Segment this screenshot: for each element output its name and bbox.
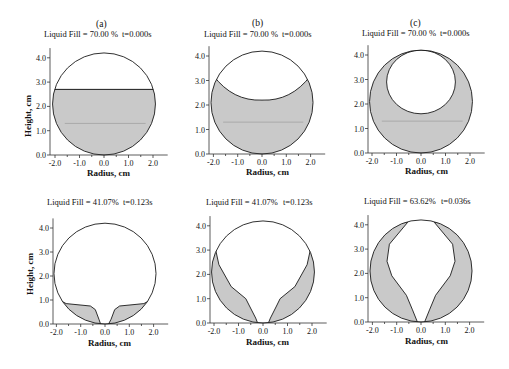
y-tick-label: 2.0 [196, 270, 206, 279]
y-tick-label: 3.0 [354, 245, 364, 254]
axes [50, 218, 168, 327]
x-tick-label: -2.0 [366, 326, 379, 335]
y-tick-label: 2.0 [354, 269, 364, 278]
y-tick-label: 1.0 [354, 294, 364, 303]
liquid-region [48, 89, 161, 157]
x-axis-title: Radius, cm [246, 167, 290, 177]
panel-title: Liquid Fill = 70.00 % [204, 29, 278, 39]
x-tick-label: 1.0 [124, 159, 134, 168]
x-tick-label: 1.0 [440, 326, 450, 335]
panel-title: Liquid Fill = 63.62% [364, 196, 436, 206]
y-tick-label: 4.0 [354, 51, 364, 60]
y-tick-label: 1.0 [196, 295, 206, 304]
plot-area: 0.01.02.03.04.0-2.0-1.00.01.02.0 [195, 44, 325, 167]
panel-top-c: (c) Liquid Fill = 70.00 % t=0.000s 0.01.… [354, 18, 485, 176]
y-tick-label: 0.0 [354, 149, 364, 158]
x-tick-label: -2.0 [207, 158, 220, 167]
plot-area: 0.01.02.03.04.0-2.0-1.00.01.02.0 [196, 216, 327, 336]
panel-title: Liquid Fill = 41.07% [206, 197, 278, 207]
y-axis-title: Height, cm [25, 253, 35, 295]
liquid-region [52, 295, 159, 324]
panel-time: t=0.123s [123, 197, 153, 207]
panel-top-b: (b) Liquid Fill = 70.00 % t=0.000s 0.01.… [195, 18, 325, 177]
y-tick-label: 4.0 [195, 52, 205, 61]
panel-title: Liquid Fill = 41.07% [47, 197, 119, 207]
x-tick-label: 1.0 [283, 327, 293, 336]
liquid-region [207, 248, 320, 323]
y-tick-label: 2.0 [36, 102, 46, 111]
panel-time: t=0.000s [122, 29, 152, 39]
y-tick-label: 4.0 [39, 224, 49, 233]
panel-time: t=0.036s [441, 196, 471, 206]
plot-area: 0.01.02.03.04.0-2.0-1.00.01.02.0 [354, 45, 485, 166]
panel-bottom-b: Liquid Fill = 41.07% t=0.123s 0.01.02.03… [196, 197, 327, 347]
x-axis-title: Radius, cm [87, 168, 131, 178]
y-tick-label: 0.0 [195, 150, 205, 159]
y-tick-label: 0.0 [39, 320, 49, 329]
x-tick-label: 1.0 [281, 158, 291, 167]
x-tick-label: -1.0 [390, 157, 403, 166]
y-tick-label: 1.0 [39, 296, 49, 305]
y-tick-label: 2.0 [195, 101, 205, 110]
liquid-region [206, 44, 318, 157]
x-tick-label: -2.0 [50, 328, 63, 337]
x-tick-label: -1.0 [74, 328, 87, 337]
panel-bottom-c: Liquid Fill = 63.62% t=0.036s 0.01.02.03… [354, 196, 484, 346]
x-tick-label: 2.0 [307, 327, 317, 336]
panel-time: t=0.000s [440, 28, 470, 38]
y-tick-label: 4.0 [354, 221, 364, 230]
panel-letter: (b) [252, 18, 263, 29]
x-tick-label: 1.0 [124, 328, 134, 337]
x-tick-label: 2.0 [465, 157, 475, 166]
y-tick-label: 1.0 [195, 126, 205, 135]
y-tick-label: 3.0 [36, 78, 46, 87]
x-tick-label: 2.0 [149, 328, 159, 337]
liquid-region [365, 48, 478, 156]
y-tick-label: 0.0 [196, 319, 206, 328]
y-tick-label: 1.0 [354, 125, 364, 134]
x-tick-label: -2.0 [49, 159, 62, 168]
x-axis-title: Radius, cm [405, 166, 449, 176]
x-tick-label: 0.0 [416, 326, 426, 335]
plot-area: 0.01.02.03.04.0-2.0-1.00.01.02.0 [39, 218, 168, 337]
liquid-fill-figure: (a) Liquid Fill = 70.00 % t=0.000s 0.01.… [0, 0, 509, 369]
y-tick-label: 3.0 [195, 77, 205, 86]
x-tick-label: -1.0 [232, 327, 245, 336]
panel-bottom-a: Liquid Fill = 41.07% t=0.123s 0.01.02.03… [25, 197, 168, 348]
panel-time: t=0.123s [283, 197, 313, 207]
x-tick-label: 0.0 [257, 158, 267, 167]
panel-title: Liquid Fill = 70.00 % [362, 28, 436, 38]
x-tick-label: -2.0 [366, 157, 379, 166]
x-tick-label: 0.0 [258, 327, 268, 336]
y-axis-title: Height, cm [23, 95, 33, 137]
x-tick-label: 0.0 [100, 328, 110, 337]
y-tick-label: 3.0 [354, 76, 364, 85]
plot-area: 0.01.02.03.04.0-2.0-1.00.01.02.0 [36, 48, 168, 168]
x-tick-label: 1.0 [441, 157, 451, 166]
y-tick-label: 2.0 [39, 272, 49, 281]
x-tick-label: 0.0 [99, 159, 109, 168]
y-tick-label: 4.0 [36, 54, 46, 63]
y-tick-label: 1.0 [36, 127, 46, 136]
y-tick-label: 2.0 [354, 100, 364, 109]
x-tick-label: -1.0 [231, 158, 244, 167]
panel-top-a: (a) Liquid Fill = 70.00 % t=0.000s 0.01.… [23, 19, 168, 178]
x-tick-label: -1.0 [390, 326, 403, 335]
x-axis-title: Radius, cm [405, 336, 449, 346]
y-tick-label: 0.0 [36, 151, 46, 160]
y-tick-label: 3.0 [196, 246, 206, 255]
y-tick-label: 0.0 [354, 318, 364, 327]
liquid-region [365, 218, 477, 323]
y-tick-label: 4.0 [196, 222, 206, 231]
x-tick-label: 2.0 [306, 158, 316, 167]
y-tick-label: 3.0 [39, 248, 49, 257]
x-tick-label: -1.0 [73, 159, 86, 168]
panel-title: Liquid Fill = 70.00 % [44, 29, 118, 39]
x-tick-label: 0.0 [416, 157, 426, 166]
x-tick-label: -2.0 [208, 327, 221, 336]
x-axis-title: Radius, cm [88, 338, 132, 348]
x-tick-label: 2.0 [465, 326, 475, 335]
x-axis-title: Radius, cm [246, 337, 290, 347]
plot-area: 0.01.02.03.04.0-2.0-1.00.01.02.0 [354, 215, 484, 335]
x-tick-label: 2.0 [148, 159, 158, 168]
